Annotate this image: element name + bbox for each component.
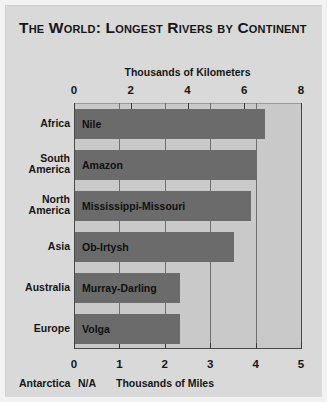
bar-north-america[interactable]: Mississippi-Missouri [75, 191, 251, 221]
category-axis-labels: AfricaSouthAmericaNorthAmericaAsiaAustra… [6, 103, 70, 349]
bar-australia[interactable]: Murray-Darling [75, 273, 180, 303]
top-tick-label-0: 0 [71, 84, 77, 96]
bar-south-america[interactable]: Amazon [75, 150, 257, 180]
bar-label: Amazon [75, 159, 123, 171]
bar-label: Mississippi-Missouri [75, 200, 185, 212]
top-tick-label-4: 4 [184, 84, 190, 96]
bar-series: NileAmazonMississippi-MissouriOb-IrtyshM… [74, 103, 301, 349]
chart-figure: The World: Longest Rivers by Continent T… [5, 5, 322, 397]
bar-europe[interactable]: Volga [75, 314, 180, 344]
bottom-tick-label-2: 2 [162, 358, 168, 370]
category-label-asia: Asia [6, 241, 70, 253]
category-label-south-america: SouthAmerica [6, 153, 70, 177]
plot-area: NileAmazonMississippi-MissouriOb-IrtyshM… [74, 103, 302, 349]
antarctica-value: N/A [78, 377, 96, 389]
bottom-tickmark-5 [301, 343, 302, 349]
category-label-north-america: NorthAmerica [6, 194, 70, 218]
bar-label: Nile [75, 118, 101, 130]
bottom-tick-label-5: 5 [298, 358, 304, 370]
bar-asia[interactable]: Ob-Irtysh [75, 232, 234, 262]
bar-label: Ob-Irtysh [75, 241, 129, 253]
top-tick-label-2: 2 [128, 84, 134, 96]
bottom-tick-label-1: 1 [116, 358, 122, 370]
page-title: The World: Longest Rivers by Continent [19, 18, 309, 38]
bar-label: Volga [75, 323, 110, 335]
bottom-tick-label-0: 0 [71, 358, 77, 370]
category-label-europe: Europe [6, 323, 70, 335]
top-tick-label-6: 6 [241, 84, 247, 96]
top-axis-title: Thousands of Kilometers [74, 66, 301, 78]
bottom-tick-label-4: 4 [252, 358, 258, 370]
top-tick-label-8: 8 [298, 84, 304, 96]
category-label-africa: Africa [6, 118, 70, 130]
antarctica-label: Antarctica [19, 377, 70, 389]
bottom-tick-label-3: 3 [207, 358, 213, 370]
bottom-axis-tick-labels: 012345 [6, 358, 323, 372]
top-tickmark-8 [301, 103, 302, 109]
top-axis-tick-labels: 02468 [6, 84, 323, 98]
category-label-australia: Australia [6, 282, 70, 294]
bar-label: Murray-Darling [75, 282, 157, 294]
bar-africa[interactable]: Nile [75, 109, 265, 139]
bottom-axis-title: Thousands of Miles [116, 377, 296, 389]
